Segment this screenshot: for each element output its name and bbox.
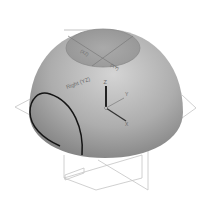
3d-viewport[interactable]: Right (YZ) (XZ) (XY) Z Y X <box>0 0 210 207</box>
hemisphere-model: Right (YZ) (XZ) (XY) Z Y X <box>0 0 210 207</box>
